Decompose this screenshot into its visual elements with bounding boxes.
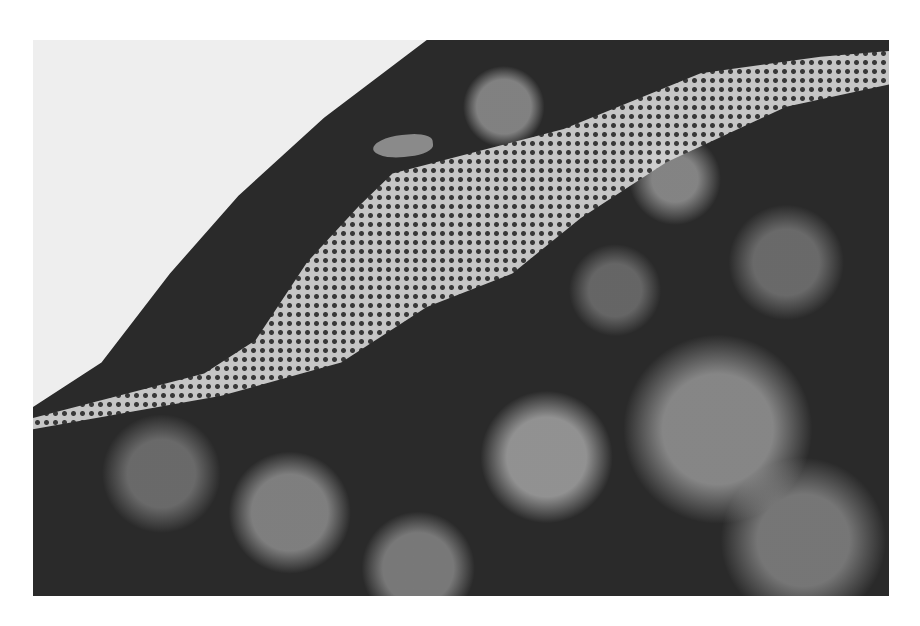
photograph xyxy=(33,40,889,596)
